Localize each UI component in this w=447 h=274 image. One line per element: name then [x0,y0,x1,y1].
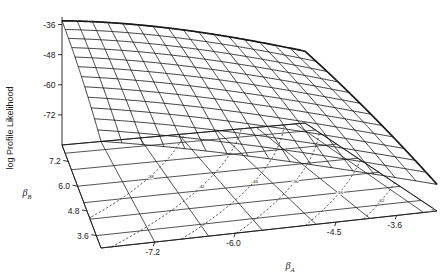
x-tick-label: -7.2 [145,247,160,257]
z-tick-label: -48 [43,50,56,60]
x-tick-label: -3.6 [387,220,402,230]
x-axis-title: βA [285,260,295,273]
y-tick-label: 3.6 [77,231,89,241]
y-tick-label: 7.2 [49,156,61,166]
y-axis-title-sub: B [28,193,32,200]
figure-container: -38-42-46-50-56-62-70 log Profile Likeli… [0,0,447,274]
z-axis-title: log Profile Likelihood [5,86,15,169]
x-axis-title-sub: A [290,266,295,273]
x-tick-label: -6.0 [226,238,241,248]
z-tick-labels: -36-48-60-72 [43,20,56,120]
z-tick-label: -36 [43,20,56,30]
x-tick-labels: -7.2-6.0-4.5-3.6 [145,220,402,257]
x-tick-label: -4.5 [327,227,342,237]
z-tick-label: -72 [43,110,56,120]
y-tick-labels: 7.26.04.83.6 [49,156,89,240]
y-axis-title: βB [22,187,32,200]
y-tick-label: 6.0 [58,181,70,191]
z-tick-label: -60 [43,80,56,90]
axis-label-layer: log Profile Likelihood βA βB -36-48-60-7… [0,0,447,274]
y-tick-label: 4.8 [68,206,80,216]
